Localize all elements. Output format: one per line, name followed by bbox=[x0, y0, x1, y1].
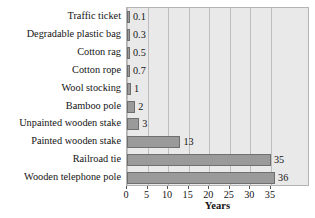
category-label: Degradable plastic bag bbox=[27, 25, 121, 43]
horizontal-bar-chart: Traffic ticketDegradable plastic bagCott… bbox=[0, 0, 315, 218]
bar-value-label: 1 bbox=[131, 81, 139, 97]
bar bbox=[127, 136, 180, 148]
bar-row: 0.3 bbox=[127, 26, 308, 44]
bar-row: 3 bbox=[127, 115, 308, 133]
bar-value-label: 0.7 bbox=[130, 63, 146, 79]
bar-row: 1 bbox=[127, 80, 308, 98]
x-axis-title: Years bbox=[126, 200, 309, 211]
category-label: Painted wooden stake bbox=[31, 132, 121, 150]
category-label: Wool stocking bbox=[61, 79, 121, 97]
bar-value-label: 3 bbox=[139, 116, 147, 132]
plot-area: 0.10.30.50.7123133536 bbox=[126, 7, 309, 186]
bar-row: 0.7 bbox=[127, 62, 308, 80]
category-label: Wooden telephone pole bbox=[24, 168, 121, 186]
category-label: Bamboo pole bbox=[66, 97, 121, 115]
bar-row: 35 bbox=[127, 151, 308, 169]
category-axis: Traffic ticketDegradable plastic bagCott… bbox=[0, 7, 124, 186]
bar-value-label: 0.1 bbox=[130, 9, 146, 25]
bar-row: 0.5 bbox=[127, 44, 308, 62]
category-label: Cotton rag bbox=[77, 43, 121, 61]
bar-value-label: 35 bbox=[271, 152, 284, 168]
bar-row: 36 bbox=[127, 169, 308, 187]
bar-value-label: 0.5 bbox=[130, 45, 146, 61]
bar-value-label: 36 bbox=[275, 170, 288, 186]
category-label: Cotton rope bbox=[72, 61, 121, 79]
bar-row: 13 bbox=[127, 133, 308, 151]
bar-row: 2 bbox=[127, 98, 308, 116]
category-label: Unpainted wooden stake bbox=[19, 114, 121, 132]
bar bbox=[127, 118, 139, 130]
bar bbox=[127, 172, 275, 184]
bar bbox=[127, 154, 271, 166]
bar-value-label: 13 bbox=[180, 134, 193, 150]
category-label: Traffic ticket bbox=[68, 7, 121, 25]
bar bbox=[127, 101, 135, 113]
bar-value-label: 2 bbox=[135, 99, 143, 115]
category-label: Railroad tie bbox=[73, 150, 121, 168]
bar-row: 0.1 bbox=[127, 8, 308, 26]
bar-value-label: 0.3 bbox=[130, 27, 146, 43]
